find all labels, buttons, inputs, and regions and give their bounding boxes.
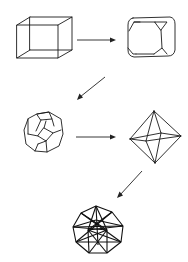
cube-shape: [17, 17, 72, 58]
arrow-cube-to-truncated-cube: [77, 38, 116, 43]
polyhedra-diagram: [0, 0, 188, 262]
arrow-truncated-octahedron-to-octahedron: [76, 135, 116, 140]
truncated-cube-shape: [128, 17, 175, 57]
compound-polyhedron-shape: [73, 206, 123, 253]
arrow-truncated-cube-to-truncated-octahedron: [77, 77, 105, 100]
octahedron-shape: [130, 111, 181, 163]
arrow-octahedron-to-compound-polyhedron: [117, 171, 142, 198]
truncated-octahedron-shape: [24, 112, 63, 152]
